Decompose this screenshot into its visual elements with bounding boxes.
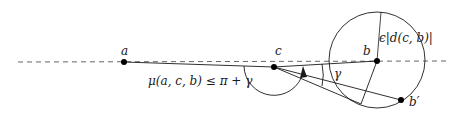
geometry-diagram: a c b b′ ϵ|d(c, b)| μ(a, c, b) ≤ π + γ γ — [0, 0, 460, 116]
radius-to-tangent — [361, 61, 377, 104]
point-b-prime — [398, 97, 404, 103]
label-angle-bound: μ(a, c, b) ≤ π + γ — [148, 74, 253, 88]
dashed-reference-line — [18, 61, 446, 62]
label-a: a — [121, 44, 128, 58]
label-gamma: γ — [334, 67, 342, 81]
label-b-prime: b′ — [409, 95, 420, 109]
segment-a-c — [124, 62, 274, 67]
segment-c-tangent — [274, 67, 361, 104]
point-b — [374, 58, 380, 64]
segment-c-b — [274, 61, 377, 67]
arrowhead-icon — [300, 66, 307, 78]
label-epsilon-radius: ϵ|d(c, b)| — [379, 31, 433, 45]
angle-arc-mu — [244, 66, 303, 95]
angle-arc-gamma — [322, 64, 323, 86]
label-c: c — [275, 44, 282, 58]
point-c — [271, 64, 277, 70]
point-a — [121, 59, 127, 65]
label-b: b — [363, 44, 371, 58]
